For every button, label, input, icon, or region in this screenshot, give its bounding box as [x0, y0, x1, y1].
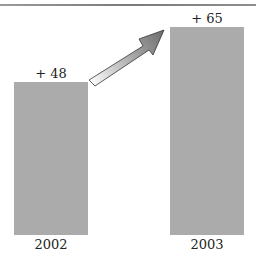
growth-arrow-icon [0, 0, 256, 258]
